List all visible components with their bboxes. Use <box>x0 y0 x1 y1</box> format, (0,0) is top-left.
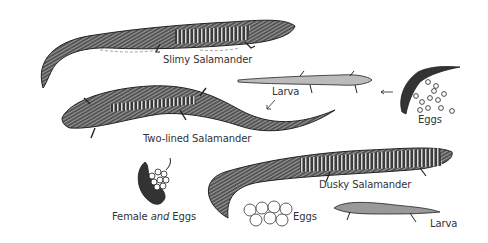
label-female-and-eggs: Female and Eggs <box>112 211 196 222</box>
eggs-bottom-drawing <box>244 201 292 226</box>
illustration-artwork <box>0 0 488 243</box>
label-eggs-bottom: Eggs <box>293 211 317 222</box>
label-and-text: and <box>151 211 170 222</box>
label-dusky-salamander: Dusky Salamander <box>319 179 411 190</box>
label-eggs-top: Eggs <box>418 114 442 125</box>
female-and-eggs-drawing <box>138 158 170 204</box>
label-larva-bottom: Larva <box>430 218 457 229</box>
label-slimy-salamander: Slimy Salamander <box>163 54 252 65</box>
label-larva-top: Larva <box>272 86 299 97</box>
larva-bottom-drawing <box>334 202 440 222</box>
label-two-lined-salamander: Two-lined Salamander <box>143 133 251 144</box>
label-female-text: Female <box>112 211 151 222</box>
salamander-illustration: Slimy Salamander Larva Eggs Two-lined Sa… <box>0 0 488 243</box>
eggs-top-drawing <box>401 67 460 114</box>
label-eggs-text: Eggs <box>169 211 196 222</box>
larva-top-drawing <box>238 71 393 109</box>
